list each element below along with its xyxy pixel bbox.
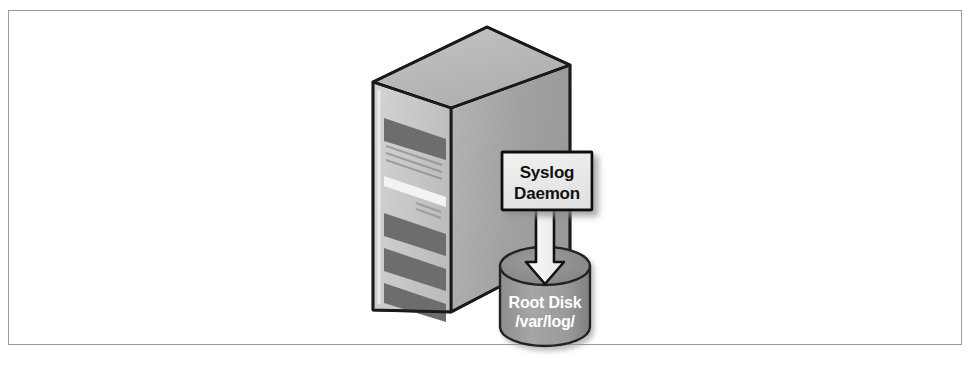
callout-label-line2: Daemon bbox=[514, 184, 580, 203]
figure-root: Root Disk /var/log/ Syslog Daemon bbox=[0, 0, 971, 369]
callout-label-line1: Syslog bbox=[520, 163, 575, 182]
disk-label-line2: /var/log/ bbox=[515, 313, 575, 330]
disk-label-line1: Root Disk bbox=[509, 294, 582, 311]
diagram-canvas: Root Disk /var/log/ Syslog Daemon bbox=[0, 0, 971, 369]
